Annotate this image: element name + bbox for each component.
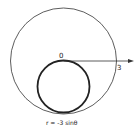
polar-diagram: 0 3 r = -3 sinθ	[0, 0, 140, 133]
inner-circle-curve	[38, 61, 90, 113]
origin-label: 0	[59, 52, 63, 60]
axis-value-label: 3	[117, 64, 121, 72]
equation-label: r = -3 sinθ	[46, 119, 78, 126]
arrowhead-icon	[128, 59, 134, 63]
